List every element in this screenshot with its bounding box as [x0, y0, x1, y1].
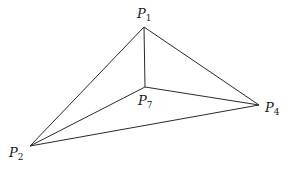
- vertex-subscript: 1: [146, 13, 152, 23]
- vertex-subscript: 2: [18, 152, 24, 162]
- vertex-label-p4: P4: [265, 101, 279, 117]
- vertex-subscript: 7: [147, 100, 153, 110]
- vertex-label-p1: P1: [137, 7, 151, 23]
- edge-p1-p7: [144, 27, 145, 87]
- edge-p7-p4: [145, 87, 259, 105]
- edge-p1-p4: [144, 27, 259, 105]
- edge-p2-p4: [30, 105, 259, 146]
- vertex-letter: P: [9, 145, 18, 160]
- vertex-label-p7: P7: [138, 94, 152, 110]
- vertex-letter: P: [265, 100, 274, 115]
- edge-p7-p2: [30, 87, 145, 146]
- vertex-letter: P: [138, 93, 147, 108]
- vertex-label-p2: P2: [9, 146, 23, 162]
- vertex-letter: P: [137, 6, 146, 21]
- diagram-canvas: [0, 0, 291, 171]
- vertex-subscript: 4: [274, 107, 280, 117]
